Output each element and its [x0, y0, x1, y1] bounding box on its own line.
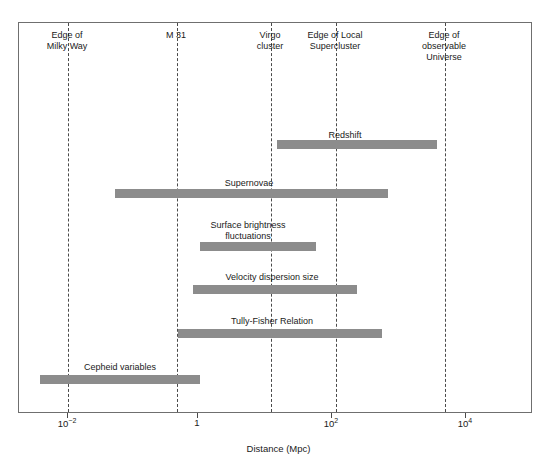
- x-tick-label-1: 1: [194, 417, 199, 428]
- reference-label-edge-of-milky-way: Edge of Milky Way: [12, 30, 122, 52]
- reference-line-edge-of-observable-universe: [445, 23, 446, 412]
- bar-label-redshift: Redshift: [265, 130, 425, 141]
- bar-surface-brightness-fluctuations: [200, 242, 316, 251]
- bar-label-velocity-dispersion-size: Velocity dispersion size: [192, 272, 352, 283]
- bar-velocity-dispersion-size: [193, 285, 357, 294]
- reference-line-virgo-cluster: [271, 23, 272, 412]
- bar-label-tully-fisher-relation: Tully-Fisher Relation: [192, 316, 352, 327]
- reference-line-edge-of-local-supercluster: [336, 23, 337, 412]
- reference-line-edge-of-milky-way: [68, 23, 69, 412]
- bar-label-supernovae: Supernovae: [169, 178, 329, 189]
- bar-label-surface-brightness-fluctuations: Surface brightness fluctuations: [168, 220, 328, 241]
- distance-ladder-figure: Edge of Milky WayM 31Virgo clusterEdge o…: [0, 0, 557, 470]
- x-axis-title: Distance (Mpc): [0, 443, 557, 454]
- bar-label-cepheid-variables: Cepheid variables: [40, 362, 200, 373]
- x-tick-label-3: 104: [458, 417, 472, 429]
- bar-cepheid-variables: [40, 375, 200, 384]
- x-tick-label-2: 102: [324, 417, 338, 429]
- bar-redshift: [277, 140, 437, 149]
- reference-label-edge-of-observable-universe: Edge of observable Universe: [389, 30, 499, 63]
- x-tick-label-0: 10−2: [58, 417, 77, 429]
- bar-tully-fisher-relation: [178, 329, 382, 338]
- bar-supernovae: [115, 189, 388, 198]
- plot-area: [18, 22, 532, 413]
- reference-line-m-31: [177, 23, 178, 412]
- reference-label-edge-of-local-supercluster: Edge of Local Supercluster: [280, 30, 390, 52]
